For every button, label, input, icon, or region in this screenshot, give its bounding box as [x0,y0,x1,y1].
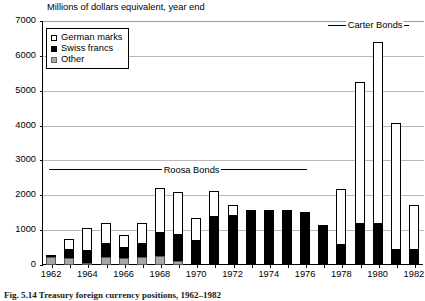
bar-segment-swiss [101,244,111,257]
bar [264,210,274,265]
bar-segment-swiss [46,255,56,257]
bar-segment-other [82,263,92,265]
x-axis-tick [288,265,289,268]
bar-segment-swiss [228,216,238,265]
bar-segment-marks [101,223,111,244]
y-axis-label: 5000 [0,85,36,95]
x-axis-tick [234,265,235,268]
chart-subtitle: Millions of dollars equivalent, year end [47,2,205,12]
bar [173,192,183,265]
bar-segment-swiss [282,210,292,265]
bar-segment-other [173,261,183,265]
gridline [43,160,424,161]
x-axis-label: 1966 [113,269,134,279]
y-axis-label: 4000 [0,120,36,130]
bar-segment-marks [373,42,383,224]
x-axis-tick [125,265,126,268]
bar-segment-other [46,257,56,265]
x-axis-tick [52,265,53,268]
x-axis-label: 1980 [367,269,388,279]
y-axis-label: 3000 [0,154,36,164]
bar-segment-marks [209,191,219,217]
x-axis-tick [397,265,398,268]
x-axis-label: 1972 [222,269,243,279]
bar-segment-marks [119,235,129,248]
x-axis-tick [107,265,108,268]
figure-caption: Fig. 5.14 Treasury foreign currency posi… [4,290,221,301]
bar-segment-marks [391,123,401,250]
bar [137,223,147,265]
x-axis-tick [361,265,362,268]
y-axis-label: 7000 [0,15,36,25]
bar [391,123,401,265]
y-axis-label: 2000 [0,189,36,199]
bar-segment-other [101,257,111,265]
x-axis-label: 1978 [331,269,352,279]
bar-segment-marks [155,188,165,233]
annotation-carter-bonds: Carter Bonds [314,20,423,30]
legend-label: Other [61,54,84,65]
bar [355,82,365,265]
annotation-line-left [49,169,162,170]
y-axis-label: 6000 [0,50,36,60]
bar [155,188,165,265]
bar-segment-swiss [209,217,219,265]
bar-segment-swiss [137,244,147,257]
bar [373,42,383,265]
bar [228,205,238,265]
bar [191,218,201,265]
bar-segment-other [119,258,129,265]
bar-segment-marks [336,189,346,245]
y-axis-tick [40,160,43,161]
gridline [43,195,424,196]
legend-item-swiss-francs: Swiss francs [51,43,122,54]
bar-segment-swiss [246,210,256,265]
bar-segment-other [137,257,147,265]
bar-segment-swiss [155,233,165,256]
bar [209,191,219,265]
bar-segment-swiss [300,212,310,265]
bar-segment-marks [173,192,183,235]
bar-segment-swiss [409,250,419,265]
legend-label: German marks [61,32,122,43]
bar-segment-swiss [264,210,274,265]
bar-segment-swiss [391,250,401,265]
bar [64,239,74,265]
y-axis-tick [40,265,43,266]
x-axis-tick [179,265,180,268]
x-axis-tick [324,265,325,268]
bar-segment-swiss [119,248,129,258]
x-axis-tick [88,265,89,268]
y-axis-tick [40,91,43,92]
x-axis-label: 1968 [150,269,171,279]
annotation-label: Roosa Bonds [162,165,222,175]
x-axis-tick [252,265,253,268]
bar-segment-marks [355,82,365,223]
bar [282,210,292,265]
y-axis-label: 0 [0,259,36,269]
bar [300,212,310,265]
x-axis-tick [342,265,343,268]
figure: Millions of dollars equivalent, year end… [0,0,425,301]
y-axis-label: 1000 [0,224,36,234]
y-axis-tick [40,126,43,127]
x-axis-label: 1962 [41,269,62,279]
gridline [43,126,424,127]
legend-swatch-open-square-icon [51,35,57,41]
bar-segment-marks [228,205,238,216]
bar [82,228,92,265]
gridline [43,91,424,92]
bar-segment-swiss [355,224,365,265]
bar-segment-other [155,256,165,265]
x-axis-tick [197,265,198,268]
bar-segment-swiss [373,224,383,265]
bar-segment-swiss [318,225,328,265]
bar [318,225,328,265]
x-axis-tick [215,265,216,268]
bar [336,189,346,265]
bar [46,256,56,265]
legend-label: Swiss francs [61,43,113,54]
bar [119,235,129,265]
bar-segment-marks [64,239,74,250]
legend-item-other: Other [51,54,122,65]
